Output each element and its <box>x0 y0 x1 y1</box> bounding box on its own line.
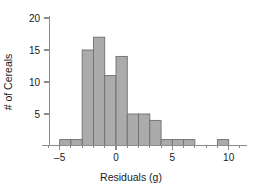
histogram-screenshot: 5101520 –50510 Residuals (g) # of Cereal… <box>0 0 260 186</box>
residuals-histogram-chart: 5101520 –50510 Residuals (g) # of Cereal… <box>0 0 260 186</box>
x-axis-tick-label: –5 <box>54 152 66 163</box>
x-axis-tick-label: 10 <box>223 152 235 163</box>
y-axis-tick-label: 20 <box>29 13 41 24</box>
histogram-bar <box>105 76 116 146</box>
chart-background <box>0 0 260 186</box>
histogram-bar <box>127 114 138 146</box>
y-axis-title: # of Cereals <box>2 54 14 111</box>
histogram-bar <box>60 140 71 146</box>
y-axis-tick-label: 10 <box>29 77 41 88</box>
histogram-bar <box>217 140 228 146</box>
x-axis-title: Residuals (g) <box>100 171 162 183</box>
y-axis-tick-label: 15 <box>29 45 41 56</box>
histogram-bar <box>82 50 93 146</box>
histogram-bar <box>172 140 183 146</box>
histogram-bar <box>161 140 172 146</box>
y-axis-tick-label: 5 <box>34 109 40 120</box>
histogram-bar <box>139 114 150 146</box>
x-axis-tick-label: 0 <box>113 152 119 163</box>
histogram-bar <box>116 56 127 145</box>
histogram-bar <box>71 140 82 146</box>
x-axis-tick-label: 5 <box>170 152 176 163</box>
histogram-bar <box>93 37 104 145</box>
histogram-bar <box>184 140 195 146</box>
histogram-bar <box>150 120 161 145</box>
